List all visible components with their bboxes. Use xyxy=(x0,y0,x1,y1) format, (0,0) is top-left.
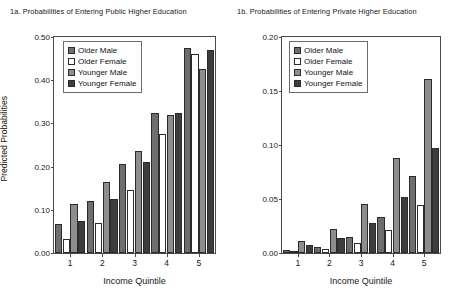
bar xyxy=(191,54,198,253)
legend-item: Younger Female xyxy=(68,78,136,89)
y-axis-tick-label: 0.10 xyxy=(34,205,50,214)
bar xyxy=(151,113,158,253)
legend-item: Older Female xyxy=(294,56,362,67)
legend-swatch-younger-male xyxy=(68,69,75,76)
y-axis-tick-label: 0.20 xyxy=(262,33,278,42)
x-axis-tick-mark xyxy=(135,253,136,257)
bar xyxy=(143,162,150,253)
legend-item: Younger Female xyxy=(294,78,362,89)
bar xyxy=(207,50,214,253)
bar xyxy=(135,151,142,253)
y-axis-tick-label: 0.20 xyxy=(34,162,50,171)
x-axis-tick-label: 3 xyxy=(132,258,137,268)
bar-group xyxy=(184,37,215,253)
x-axis-tick-mark xyxy=(424,253,425,257)
panel-public: 1a. Probabilities of Entering Public Hig… xyxy=(0,0,227,299)
bar xyxy=(377,217,384,253)
bar xyxy=(110,199,117,253)
bar xyxy=(290,251,297,253)
bar xyxy=(95,223,102,253)
x-axis-label-public: Income Quintile xyxy=(53,276,216,286)
x-axis-tick-label: 2 xyxy=(327,258,332,268)
panel-title-private: 1b. Probabilities of Entering Private Hi… xyxy=(237,7,452,16)
bar xyxy=(55,224,62,253)
bar xyxy=(127,190,134,253)
y-axis-tick-mark xyxy=(51,123,54,124)
x-axis-tick-mark xyxy=(329,253,330,257)
x-axis-tick-mark xyxy=(102,253,103,257)
y-axis-tick-label: 0.40 xyxy=(34,76,50,85)
bar xyxy=(361,204,368,253)
x-axis-tick-mark xyxy=(361,253,362,257)
bar xyxy=(354,243,361,253)
legend-label: Younger Male xyxy=(78,68,127,77)
legend-label: Older Female xyxy=(78,57,126,66)
legend-item: Older Male xyxy=(294,45,362,56)
bar xyxy=(87,201,94,253)
legend-label: Older Female xyxy=(304,57,352,66)
bar xyxy=(385,230,392,253)
panel-private: 1b. Probabilities of Entering Private Hi… xyxy=(227,0,454,299)
x-axis-tick-label: 3 xyxy=(359,258,364,268)
x-axis-tick-label: 4 xyxy=(164,258,169,268)
y-axis-tick-mark xyxy=(51,210,54,211)
bar xyxy=(432,148,439,253)
bar xyxy=(322,249,329,253)
bar xyxy=(314,247,321,253)
bar xyxy=(409,176,416,253)
bar xyxy=(167,115,174,253)
y-axis-tick-label: 0.10 xyxy=(262,141,278,150)
y-axis-tick-label: 0.50 xyxy=(34,33,50,42)
legend-item: Older Female xyxy=(68,56,136,67)
bar-group xyxy=(409,37,440,253)
legend-label: Older Male xyxy=(304,46,343,55)
x-axis-tick-label: 2 xyxy=(100,258,105,268)
y-axis-label-public: Predicted Probabilities xyxy=(0,10,9,96)
bar xyxy=(369,223,376,253)
y-axis-tick-mark xyxy=(51,167,54,168)
x-axis-tick-mark xyxy=(167,253,168,257)
y-axis-tick-mark xyxy=(279,91,282,92)
x-axis-tick-label: 1 xyxy=(295,258,300,268)
legend-item: Older Male xyxy=(68,45,136,56)
legend-label: Younger Male xyxy=(304,68,353,77)
y-axis-tick-label: 0.00 xyxy=(262,249,278,258)
bar xyxy=(63,239,70,253)
x-axis-tick-mark xyxy=(70,253,71,257)
x-axis-tick-label: 5 xyxy=(422,258,427,268)
x-axis-tick-mark xyxy=(199,253,200,257)
y-axis-tick-mark xyxy=(279,253,282,254)
legend-swatch-younger-female xyxy=(68,80,75,87)
legend-swatch-younger-male xyxy=(294,69,301,76)
legend-item: Younger Male xyxy=(294,67,362,78)
bar xyxy=(424,79,431,253)
bar xyxy=(78,221,85,253)
y-axis-tick-label: 0.05 xyxy=(262,195,278,204)
bar-group xyxy=(377,37,408,253)
legend-swatch-older-female xyxy=(294,58,301,65)
legend-public: Older Male Older Female Younger Male You… xyxy=(63,41,142,93)
bar xyxy=(70,204,77,253)
x-axis-tick-label: 5 xyxy=(197,258,202,268)
bar xyxy=(159,134,166,253)
legend-label: Older Male xyxy=(78,46,117,55)
panel-title-public: 1a. Probabilities of Entering Public Hig… xyxy=(10,7,225,16)
y-axis-tick-mark xyxy=(51,37,54,38)
bar xyxy=(175,113,182,253)
y-axis-tick-mark xyxy=(51,80,54,81)
legend-swatch-older-male xyxy=(294,47,301,54)
y-axis-tick-mark xyxy=(279,145,282,146)
y-axis-tick-label: 0.15 xyxy=(262,87,278,96)
bar-group xyxy=(151,37,182,253)
bar xyxy=(103,182,110,253)
y-axis-tick-label: 0.30 xyxy=(34,119,50,128)
x-axis-tick-mark xyxy=(393,253,394,257)
bar xyxy=(184,48,191,253)
y-axis-tick-mark xyxy=(279,199,282,200)
bar xyxy=(199,69,206,253)
x-axis-tick-label: 4 xyxy=(390,258,395,268)
legend-swatch-older-female xyxy=(68,58,75,65)
y-axis-tick-mark xyxy=(51,253,54,254)
legend-swatch-younger-female xyxy=(294,80,301,87)
x-axis-label-private: Income Quintile xyxy=(281,276,441,286)
